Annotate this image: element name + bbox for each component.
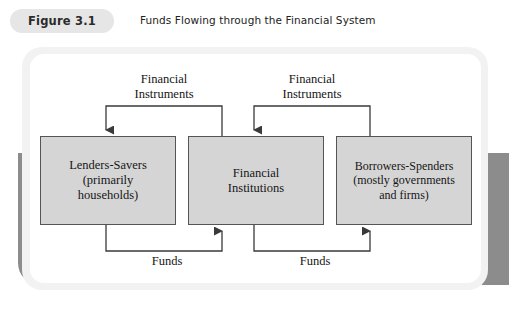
flow-label-line2: Instruments <box>134 87 193 101</box>
node-borrowers-spenders-label: Borrowers-Spenders (mostly governments a… <box>350 159 458 201</box>
figure-number-badge: Figure 3.1 <box>10 9 114 33</box>
node-line3: and firms) <box>379 188 429 202</box>
figure-page: Figure 3.1 Funds Flowing through the Fin… <box>0 0 509 310</box>
flow-label-funds-left: Funds <box>132 254 202 269</box>
flow-label-line1: Financial <box>141 72 188 86</box>
node-line1: Borrowers-Spenders <box>355 159 454 173</box>
figure-number-label: Figure 3.1 <box>28 14 96 28</box>
node-line2: Institutions <box>228 181 284 195</box>
flow-label-financial-instruments-right: Financial Instruments <box>252 72 372 102</box>
flow-label-line2: Instruments <box>282 87 341 101</box>
node-line1: Financial <box>233 166 280 180</box>
flow-label-financial-instruments-left: Financial Instruments <box>104 72 224 102</box>
node-financial-institutions: Financial Institutions <box>188 136 324 225</box>
node-line2: (mostly governments <box>353 173 455 187</box>
figure-header: Figure 3.1 Funds Flowing through the Fin… <box>0 0 509 44</box>
node-line2: (primarily <box>83 173 134 187</box>
edge-institutions-to-borrowers <box>254 225 370 251</box>
edge-lenders-to-institutions <box>106 225 222 251</box>
flow-label-line1: Financial <box>289 72 336 86</box>
node-borrowers-spenders: Borrowers-Spenders (mostly governments a… <box>336 136 472 225</box>
edge-institutions-to-lenders <box>106 106 222 136</box>
node-financial-institutions-label: Financial Institutions <box>225 166 287 196</box>
flow-label-funds-right: Funds <box>280 254 350 269</box>
node-lenders-savers: Lenders-Savers (primarily households) <box>40 136 176 225</box>
edge-borrowers-to-institutions <box>254 106 370 136</box>
figure-title: Funds Flowing through the Financial Syst… <box>140 14 376 26</box>
node-lenders-savers-label: Lenders-Savers (primarily households) <box>66 158 150 202</box>
node-line1: Lenders-Savers <box>69 158 147 172</box>
node-line3: households) <box>78 188 138 202</box>
